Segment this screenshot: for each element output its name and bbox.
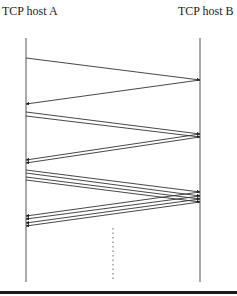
segment-arrows [26, 58, 200, 226]
data-segment-arrow [26, 116, 200, 137]
ack-arrow [26, 137, 200, 163]
data-segment-arrow [26, 58, 200, 80]
data-segment-arrow [26, 170, 200, 192]
sequence-diagram [0, 0, 237, 296]
ack-arrow [26, 196, 200, 219]
ack-arrow [26, 134, 200, 160]
ack-arrow [26, 80, 200, 104]
data-segment-arrow [26, 112, 200, 134]
data-segment-arrow [26, 177, 200, 199]
data-segment-arrow [26, 173, 200, 196]
ack-arrow [26, 202, 200, 226]
bottom-rule [0, 291, 237, 294]
ack-arrow [26, 199, 200, 223]
data-segment-arrow [26, 180, 200, 202]
